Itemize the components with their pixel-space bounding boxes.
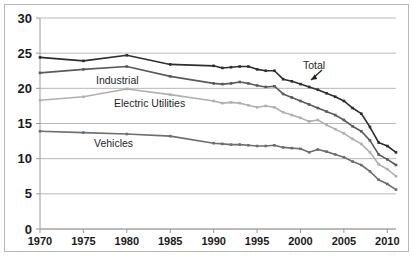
- data-point-2004: [334, 128, 337, 131]
- data-point-2005: [343, 100, 346, 103]
- data-point-2010: [386, 183, 389, 186]
- data-point-2002: [317, 88, 320, 91]
- x-axis-label-1985: 1985: [148, 236, 192, 247]
- data-point-2006: [351, 160, 354, 163]
- data-point-2006: [351, 107, 354, 110]
- series-industrial: [39, 65, 398, 166]
- data-point-2001: [308, 103, 311, 106]
- data-point-2003: [325, 92, 328, 95]
- data-point-1998: [282, 146, 285, 149]
- data-point-1980: [126, 133, 129, 136]
- data-point-1999: [291, 80, 294, 83]
- data-point-1994: [247, 82, 250, 85]
- data-point-1992: [230, 101, 233, 104]
- data-series-layer: [39, 54, 398, 191]
- data-point-2003: [325, 110, 328, 113]
- data-point-1970: [39, 72, 42, 75]
- y-axis-label-20: 20: [2, 82, 32, 95]
- data-point-2002: [317, 148, 320, 151]
- data-point-2009: [377, 141, 380, 144]
- data-point-1970: [39, 130, 42, 133]
- data-point-2011: [395, 164, 398, 167]
- x-axis-label-1990: 1990: [192, 236, 236, 247]
- data-point-2011: [395, 188, 398, 191]
- gridlines: [40, 18, 396, 229]
- data-point-1991: [221, 83, 224, 86]
- data-point-2007: [360, 130, 363, 133]
- data-point-2000: [299, 148, 302, 151]
- data-point-2011: [395, 175, 398, 178]
- data-point-2011: [395, 151, 398, 154]
- data-point-1994: [247, 65, 250, 68]
- data-point-1995: [256, 84, 259, 87]
- data-point-1994: [247, 144, 250, 147]
- data-point-2005: [343, 119, 346, 122]
- series-label-industrial: Industrial: [96, 75, 139, 86]
- data-point-1991: [221, 143, 224, 146]
- chart-container: 051015202530 197019751980198519901995200…: [0, 0, 413, 259]
- data-point-1993: [238, 102, 241, 105]
- data-point-1980: [126, 54, 129, 57]
- data-point-1995: [256, 145, 259, 148]
- data-point-2004: [334, 153, 337, 156]
- data-point-2003: [325, 150, 328, 153]
- y-axis-label-5: 5: [2, 187, 32, 200]
- data-point-1970: [39, 99, 42, 102]
- data-point-1999: [291, 147, 294, 150]
- data-point-1980: [126, 65, 129, 68]
- x-axis-label-1980: 1980: [105, 236, 149, 247]
- data-point-2004: [334, 114, 337, 117]
- chart-plot-area: [0, 0, 413, 259]
- data-point-1995: [256, 68, 259, 71]
- series-label-vehicles: Vehicles: [94, 138, 133, 149]
- data-point-1985: [169, 135, 172, 138]
- data-point-2003: [325, 124, 328, 127]
- data-point-2008: [369, 139, 372, 142]
- data-point-2004: [334, 95, 337, 98]
- annotation-arrow-layer: [311, 70, 322, 80]
- data-point-2009: [377, 178, 380, 181]
- data-point-1993: [238, 65, 241, 68]
- data-point-1985: [169, 93, 172, 96]
- data-point-2000: [299, 83, 302, 86]
- data-point-2005: [343, 156, 346, 159]
- y-axis-label-10: 10: [2, 152, 32, 165]
- y-axis-label-0: 0: [2, 223, 32, 236]
- data-point-2007: [360, 143, 363, 146]
- data-point-2001: [308, 151, 311, 154]
- data-point-2005: [343, 132, 346, 135]
- data-point-1975: [82, 60, 85, 63]
- data-point-2000: [299, 100, 302, 103]
- data-point-1998: [282, 111, 285, 114]
- series-line: [40, 67, 396, 165]
- data-point-2008: [369, 126, 372, 129]
- data-point-2009: [377, 153, 380, 156]
- y-axis-label-15: 15: [2, 117, 32, 130]
- data-point-1998: [282, 78, 285, 81]
- x-axis-label-1995: 1995: [235, 236, 279, 247]
- data-point-1999: [291, 96, 294, 99]
- x-axis-label-2005: 2005: [322, 236, 366, 247]
- data-point-1980: [126, 88, 129, 91]
- data-point-1990: [212, 65, 215, 68]
- y-axis-label-30: 30: [2, 12, 32, 25]
- data-point-1975: [82, 68, 85, 71]
- data-point-2006: [351, 125, 354, 128]
- data-point-1999: [291, 114, 294, 117]
- data-point-1970: [39, 56, 42, 59]
- series-vehicles: [39, 130, 398, 191]
- data-point-1994: [247, 104, 250, 107]
- x-axis-label-1970: 1970: [18, 236, 62, 247]
- data-point-1991: [221, 102, 224, 105]
- y-axis-label-25: 25: [2, 47, 32, 60]
- data-point-2006: [351, 138, 354, 141]
- data-point-2002: [317, 119, 320, 122]
- data-point-2001: [308, 120, 311, 123]
- data-point-1992: [230, 143, 233, 146]
- data-point-2002: [317, 107, 320, 110]
- data-point-1990: [212, 142, 215, 145]
- data-point-1996: [264, 69, 267, 72]
- data-point-1996: [264, 145, 267, 148]
- data-point-1996: [264, 105, 267, 108]
- data-point-1992: [230, 82, 233, 85]
